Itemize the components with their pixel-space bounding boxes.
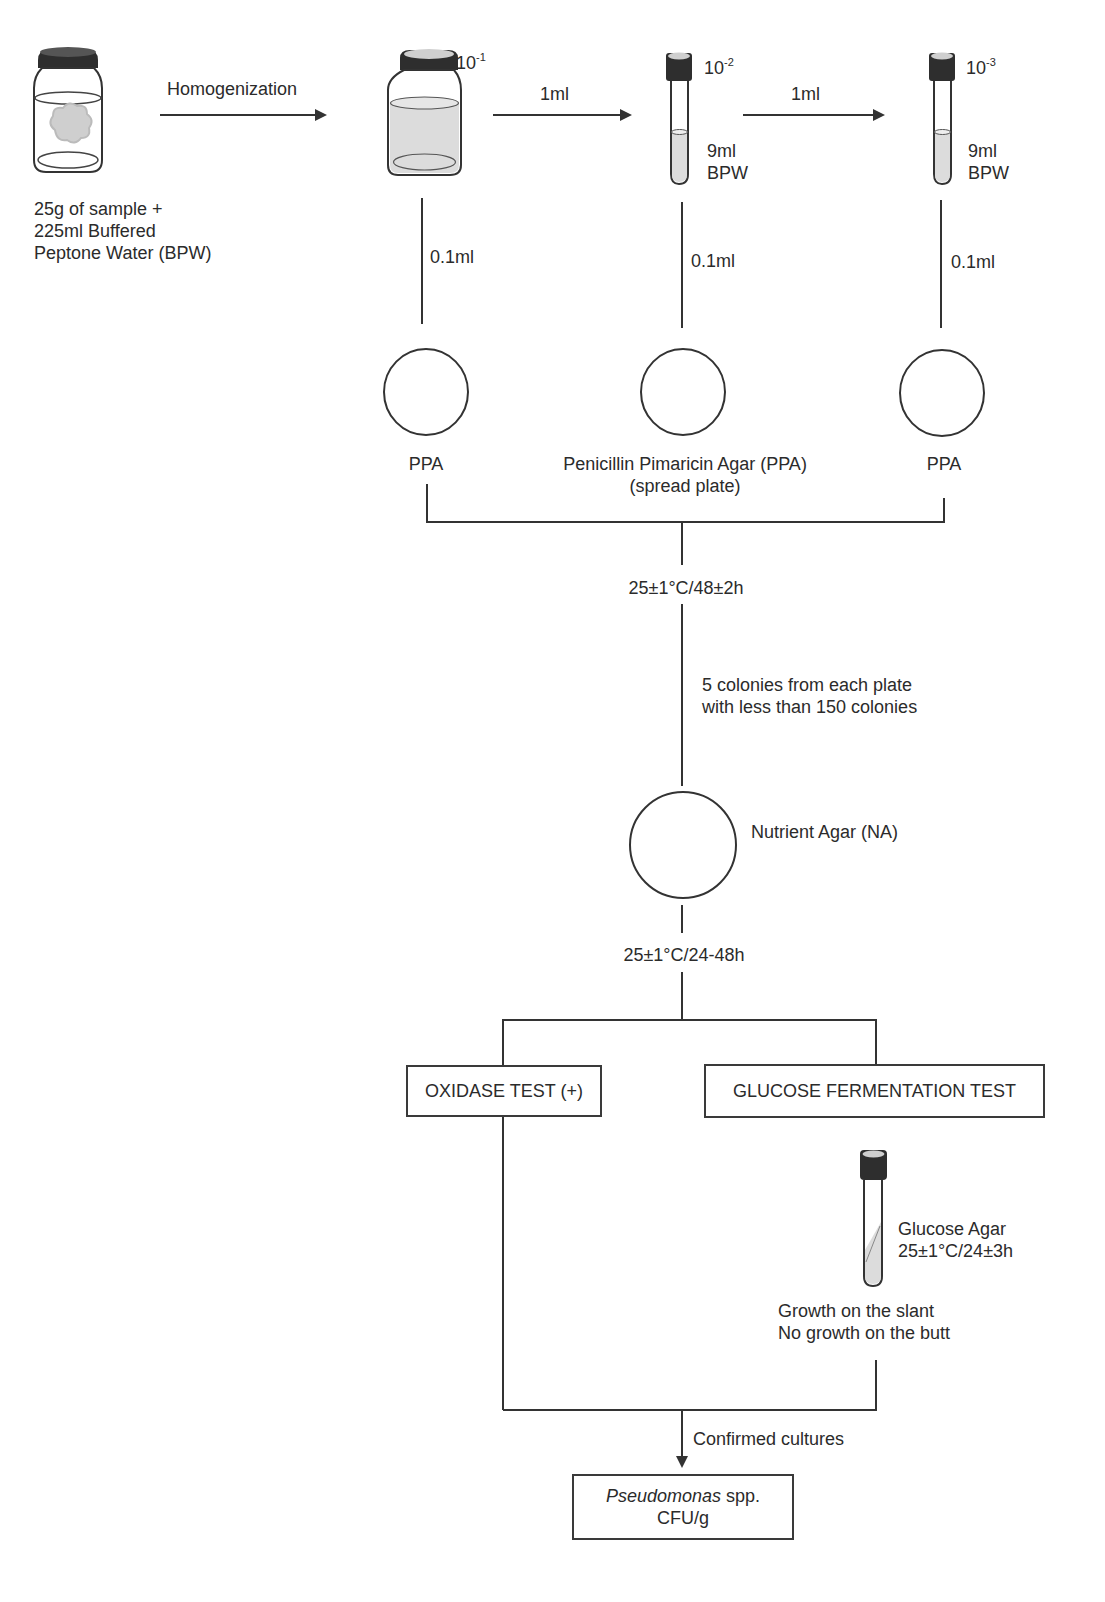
glucose-fermentation-test-box: GLUCOSE FERMENTATION TEST xyxy=(704,1064,1045,1118)
test-tube-icon xyxy=(666,53,692,185)
dilution-exponent: -2 xyxy=(724,56,734,68)
inoculum-label-1: 0.1ml xyxy=(430,246,474,268)
nutrient-agar-plate xyxy=(630,792,736,898)
confirmed-cultures-label: Confirmed cultures xyxy=(693,1428,844,1450)
transfer-label-2: 1ml xyxy=(791,83,820,105)
plate-label-center: Penicillin Pimaricin Agar (PPA) (spread … xyxy=(563,453,807,497)
medium-name: BPW xyxy=(707,162,748,184)
dilution-base: 10 xyxy=(966,58,986,78)
dilution-label-1: 10-1 xyxy=(456,52,486,76)
organism-suffix: spp. xyxy=(721,1486,760,1506)
glucose-agar-name: Glucose Agar xyxy=(898,1218,1013,1240)
slant-result: Growth on the slant xyxy=(778,1300,950,1322)
sample-label-line: 225ml Buffered xyxy=(34,220,211,242)
glucose-agar-tube-icon xyxy=(860,1150,887,1286)
transfer-label-1: 1ml xyxy=(540,83,569,105)
sample-label: 25g of sample + 225ml Buffered Peptone W… xyxy=(34,198,211,264)
plate-label-right: PPA xyxy=(927,453,962,475)
flowchart: 25g of sample + 225ml Buffered Peptone W… xyxy=(0,0,1105,1602)
inoculum-label-2: 0.1ml xyxy=(691,250,735,272)
dilution-label-2: 10-2 xyxy=(704,57,734,81)
nutrient-agar-label: Nutrient Agar (NA) xyxy=(751,821,898,843)
sample-label-line: Peptone Water (BPW) xyxy=(34,242,211,264)
dilution-base: 10 xyxy=(456,53,476,73)
butt-result: No growth on the butt xyxy=(778,1322,950,1344)
jar-with-sample-icon xyxy=(34,47,102,172)
plate-medium-name: Penicillin Pimaricin Agar (PPA) xyxy=(563,453,807,475)
colony-pick-line: 5 colonies from each plate xyxy=(702,674,917,696)
ppa-plate-center xyxy=(641,349,725,435)
homogenization-label: Homogenization xyxy=(167,78,297,100)
medium-volume: 9ml xyxy=(968,140,1009,162)
glucose-result-label: Growth on the slant No growth on the but… xyxy=(778,1300,950,1344)
test-tube-icon xyxy=(929,53,955,185)
colony-pick-label: 5 colonies from each plate with less tha… xyxy=(702,674,917,718)
tube-medium-label-2: 9ml BPW xyxy=(707,140,748,184)
incubation-label-1: 25±1°C/48±2h xyxy=(628,577,743,599)
organism-genus: Pseudomonas xyxy=(606,1486,721,1506)
ppa-plate-left xyxy=(384,349,468,435)
dilution-label-3: 10-3 xyxy=(966,57,996,81)
inoculum-label-3: 0.1ml xyxy=(951,251,995,273)
dilution-exponent: -3 xyxy=(986,56,996,68)
medium-volume: 9ml xyxy=(707,140,748,162)
dilution-base: 10 xyxy=(704,58,724,78)
plate-label-left: PPA xyxy=(409,453,444,475)
result-unit: CFU/g xyxy=(657,1507,709,1529)
incubation-label-2: 25±1°C/24-48h xyxy=(623,944,744,966)
colony-pick-line: with less than 150 colonies xyxy=(702,696,917,718)
result-organism: Pseudomonas spp. xyxy=(606,1485,760,1507)
glucose-agar-incubation: 25±1°C/24±3h xyxy=(898,1240,1013,1262)
plate-method: (spread plate) xyxy=(563,475,807,497)
tube-medium-label-3: 9ml BPW xyxy=(968,140,1009,184)
oxidase-test-box: OXIDASE TEST (+) xyxy=(406,1065,602,1117)
bottle-icon xyxy=(388,49,461,175)
medium-name: BPW xyxy=(968,162,1009,184)
result-box: Pseudomonas spp. CFU/g xyxy=(572,1474,794,1540)
ppa-plate-right xyxy=(900,350,984,436)
dilution-exponent: -1 xyxy=(476,51,486,63)
glucose-agar-label: Glucose Agar 25±1°C/24±3h xyxy=(898,1218,1013,1262)
sample-label-line: 25g of sample + xyxy=(34,198,211,220)
